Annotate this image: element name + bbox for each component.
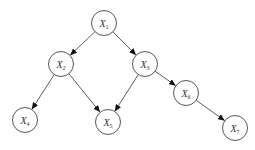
node-x2: X2 (49, 52, 74, 77)
node-x5: X5 (96, 110, 121, 135)
node-subscript: 4 (27, 121, 30, 127)
edge-x2-to-x5 (69, 74, 100, 112)
node-subscript: 7 (237, 129, 240, 135)
node-x1: X1 (92, 11, 117, 36)
edge-x1-to-x2 (70, 32, 95, 55)
edge-x1-to-x3 (113, 32, 136, 55)
node-x3: X3 (133, 52, 158, 77)
node-subscript: 1 (106, 24, 109, 30)
node-x4: X4 (13, 108, 38, 133)
node-subscript: 2 (63, 65, 66, 71)
edge-x2-to-x4 (32, 75, 54, 110)
node-subscript: 5 (110, 123, 113, 129)
node-subscript: 6 (188, 94, 191, 100)
edge-x3-to-x6 (155, 71, 175, 85)
edge-x3-to-x5 (115, 75, 138, 112)
node-subscript: 3 (147, 65, 150, 71)
edge-x6-to-x7 (196, 100, 224, 120)
nodes-group: X1X2X3X4X5X6X7 (13, 11, 248, 141)
node-x7: X7 (223, 116, 248, 141)
bayesian-network-diagram: X1X2X3X4X5X6X7 (0, 0, 255, 150)
node-x6: X6 (174, 81, 199, 106)
